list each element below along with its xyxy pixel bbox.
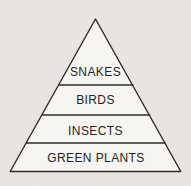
level-label-snakes: SNAKES (70, 65, 121, 79)
pyramid-svg: SNAKES BIRDS INSECTS GREEN PLANTS (0, 0, 191, 186)
level-label-birds: BIRDS (76, 93, 115, 107)
level-label-insects: INSECTS (68, 124, 123, 138)
level-label-green-plants: GREEN PLANTS (47, 151, 145, 165)
pyramid-diagram: SNAKES BIRDS INSECTS GREEN PLANTS (0, 0, 191, 186)
